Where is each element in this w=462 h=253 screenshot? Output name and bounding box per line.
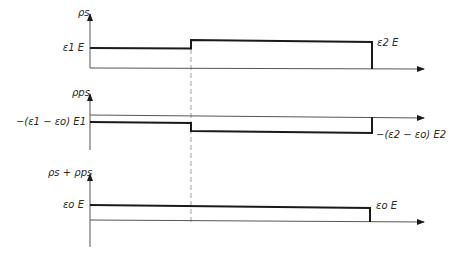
panel3-left-value-label: εo E [40, 200, 84, 210]
panel2-right-value-label: −(ε2 − εo) E2 [376, 130, 446, 140]
panel2-left-value-label: −(ε1 − εo) E1 [4, 117, 86, 127]
panel3-charge-profile [90, 205, 370, 222]
panel1-right-value-label: ε2 E [377, 38, 398, 48]
panel-free-charge [90, 14, 424, 69]
panel2-axis-label: ρps [72, 88, 90, 98]
panel1-x-axis [90, 68, 424, 69]
panel1-axis-label: ρs [78, 8, 90, 18]
panel3-x-axis [90, 220, 424, 222]
panel3-axis-label: ρs + ρps [48, 168, 92, 178]
panel-total-charge [90, 174, 424, 247]
panel1-left-value-label: ε1 E [30, 43, 84, 53]
panel2-charge-profile [90, 117, 372, 133]
panel1-charge-profile [90, 40, 372, 69]
panel3-right-value-label: εo E [376, 201, 397, 211]
panel-polarization-charge [90, 94, 424, 150]
panel2-x-axis [90, 115, 424, 118]
